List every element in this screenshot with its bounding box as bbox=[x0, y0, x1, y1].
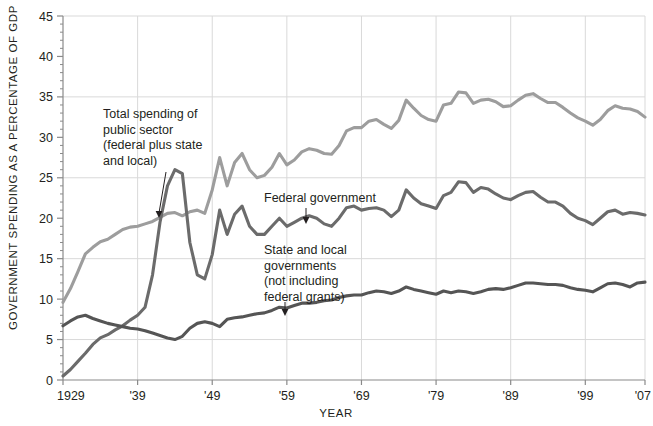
y-tick-label: 15 bbox=[39, 252, 53, 266]
x-tick-label: '07 bbox=[635, 389, 651, 403]
y-tick-label: 25 bbox=[39, 171, 53, 185]
y-tick-label: 20 bbox=[39, 212, 53, 226]
y-tick-label: 0 bbox=[46, 374, 53, 388]
x-tick-label: '79 bbox=[428, 389, 444, 403]
x-tick-label: '89 bbox=[503, 389, 519, 403]
chart-container: 0510152025303540451929'39'49'59'69'79'89… bbox=[0, 0, 653, 426]
y-axis-title: GOVERNMENT SPENDING AS A PERCENTAGE OF G… bbox=[7, 5, 19, 330]
y-tick-label: 30 bbox=[39, 131, 53, 145]
x-tick-label: '99 bbox=[577, 389, 593, 403]
x-tick-label: '69 bbox=[353, 389, 369, 403]
x-axis-title: YEAR bbox=[319, 407, 353, 419]
x-tick-label: '59 bbox=[279, 389, 295, 403]
x-tick-label: '39 bbox=[129, 389, 145, 403]
state-local-annotation-text: State and localgovernments(not including… bbox=[264, 243, 347, 304]
line-chart: 0510152025303540451929'39'49'59'69'79'89… bbox=[0, 0, 653, 426]
y-tick-label: 40 bbox=[39, 50, 53, 64]
y-tick-label: 35 bbox=[39, 90, 53, 104]
y-tick-label: 10 bbox=[39, 293, 53, 307]
x-tick-label: 1929 bbox=[57, 389, 85, 403]
x-tick-label: '49 bbox=[204, 389, 220, 403]
chart-background bbox=[0, 0, 653, 426]
y-tick-label: 5 bbox=[46, 333, 53, 347]
federal-government-annotation-text: Federal government bbox=[264, 191, 376, 205]
y-tick-label: 45 bbox=[39, 10, 53, 24]
